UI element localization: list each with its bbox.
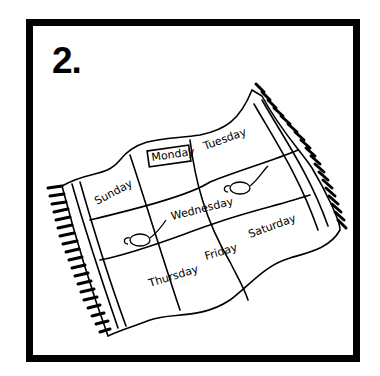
magic-carpet-illustration: Sunday Monday Tuesday Wednesday Thursday… [0, 0, 380, 376]
day-saturday: Saturday [247, 211, 298, 240]
day-friday: Friday [203, 241, 239, 263]
day-thursday: Thursday [146, 262, 200, 290]
day-sunday: Sunday [92, 177, 135, 208]
magic-lamp-icon [224, 166, 268, 194]
day-tuesday: Tuesday [201, 125, 249, 153]
